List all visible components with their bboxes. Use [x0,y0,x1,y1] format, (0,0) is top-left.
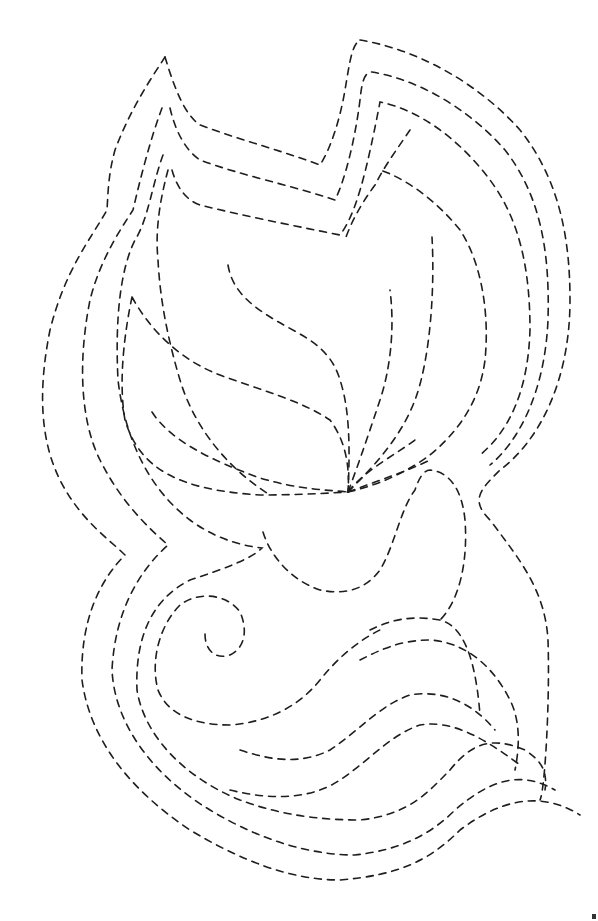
swirl [155,596,380,725]
bottom-wave-4 [360,640,518,770]
leaf-vein-5 [348,440,430,492]
leaf-vein-4 [348,237,433,492]
bottom-wave-2 [240,694,495,760]
outer-contour-1 [43,40,580,880]
inner-contour-4 [157,102,530,495]
center-curl [263,470,466,620]
leaf-outline [122,170,486,495]
corner-mark [592,914,596,919]
bottom-wave-3 [230,724,520,797]
outer-contour-2 [83,40,555,855]
bottom-wave-1 [370,618,480,715]
leaf-vein-3 [348,290,392,492]
stitch-pattern-drawing [0,0,598,921]
leaf-vein-1 [228,265,349,492]
outer-contour-3 [117,72,548,820]
